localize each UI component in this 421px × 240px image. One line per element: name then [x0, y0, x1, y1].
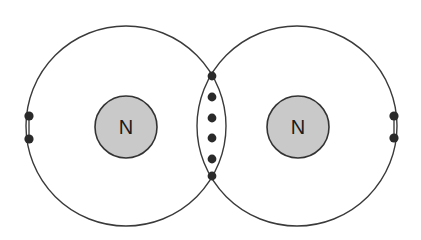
shared-electron [208, 114, 217, 123]
shared-electron [208, 172, 217, 181]
shared-electron [208, 93, 217, 102]
atom-left: N [24, 26, 226, 226]
shared-electron [208, 155, 217, 164]
electron [389, 111, 398, 120]
atom-right: N [197, 26, 399, 226]
n2-covalent-bond-diagram: N N [0, 0, 421, 240]
electron [389, 133, 398, 142]
electron [24, 111, 33, 120]
shared-electrons [208, 72, 217, 181]
atom-symbol-right: N [291, 116, 305, 138]
electron [24, 134, 33, 143]
shared-electron [208, 72, 217, 81]
atom-symbol-left: N [119, 116, 133, 138]
shared-electron [208, 134, 217, 143]
